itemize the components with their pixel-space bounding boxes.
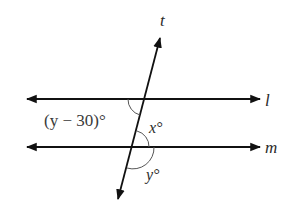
diagram-canvas: t l m (y − 30)° x° y°: [0, 0, 299, 212]
angle-label-x: x°: [148, 119, 163, 136]
angle-label-y: y°: [144, 166, 160, 184]
angle-label-y-minus-30: (y − 30)°: [44, 111, 106, 130]
angle-arc-top-left: [128, 99, 140, 115]
label-t: t: [160, 11, 166, 30]
label-m: m: [265, 138, 277, 157]
label-l: l: [265, 91, 270, 110]
angle-arc-x: [137, 131, 149, 147]
